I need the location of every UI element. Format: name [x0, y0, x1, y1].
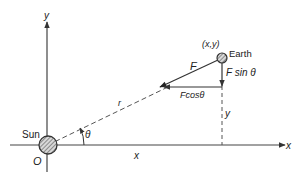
radius-line [48, 86, 170, 145]
angle-label: θ [85, 129, 91, 140]
sun-earth-force-diagram: y x O Sun Earth (x,y) F F sin θ Fcosθ r … [0, 0, 298, 174]
force-y-label: F sin θ [226, 67, 256, 78]
force-x-label: Fcosθ [180, 90, 205, 100]
y-distance-label: y [224, 108, 231, 119]
radius-label: r [118, 98, 122, 108]
earth-coords-label: (x,y) [202, 39, 220, 49]
earth-icon [217, 53, 227, 63]
angle-arc [80, 128, 84, 145]
sun-label: Sun [22, 129, 40, 140]
y-axis-label: y [43, 10, 50, 21]
earth-label: Earth [229, 48, 252, 59]
x-axis-label: x [285, 140, 292, 151]
sun-icon [39, 136, 57, 154]
x-distance-label: x [133, 150, 140, 161]
origin-label: O [33, 155, 42, 167]
force-vector [160, 60, 218, 87]
